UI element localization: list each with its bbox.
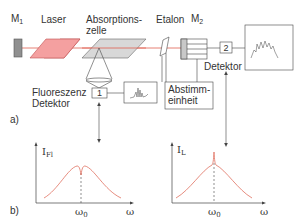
arrow-head-up-1 <box>97 102 101 106</box>
laser-medium-full <box>30 39 80 58</box>
absorption-cell-label: Absorptions-zelle <box>86 14 142 36</box>
arrow-head-down-1 <box>97 139 101 143</box>
mirror-m1-label: M1 <box>11 13 23 27</box>
detector-2-number: 2 <box>220 43 232 53</box>
fluorescence-detector-label: FluoreszenzDetektor <box>32 87 86 109</box>
mirror-m1 <box>14 39 22 57</box>
plot1-y-arrow <box>35 142 38 146</box>
laser-intensity-display <box>245 25 293 70</box>
laser-label: Laser <box>41 14 66 25</box>
plot2-y-arrow <box>171 142 174 146</box>
arrow-head-down-2 <box>224 143 228 147</box>
plot1-y-label: IFl <box>42 146 53 161</box>
detector-1-number: 1 <box>92 88 107 98</box>
plot2-x-label: ω <box>260 206 268 217</box>
detector-2-label: Detektor <box>204 61 242 72</box>
plot1-x-label: ω <box>126 206 134 217</box>
panel-a-marker: a) <box>10 114 19 125</box>
plot1-x-arrow <box>130 202 134 205</box>
etalon <box>160 37 169 56</box>
tuning-unit-label: Abstimm-einheit <box>168 84 210 106</box>
plot1-fluorescence-curve <box>44 166 121 198</box>
absorption-cell <box>82 39 146 58</box>
plot2-y-label: IL <box>177 144 186 159</box>
plot2-center-label: ω0 <box>208 206 221 221</box>
plot1-center-label: ω0 <box>75 206 88 221</box>
collection-lens <box>86 78 112 82</box>
mirror-m2-label: M2 <box>191 13 203 27</box>
etalon-label: Etalon <box>156 14 184 25</box>
panel-b-marker: b) <box>10 205 19 216</box>
spectroscopy-setup-diagram <box>0 0 300 223</box>
plot2-x-arrow <box>262 202 266 205</box>
mirror-m2-plate <box>181 39 187 59</box>
